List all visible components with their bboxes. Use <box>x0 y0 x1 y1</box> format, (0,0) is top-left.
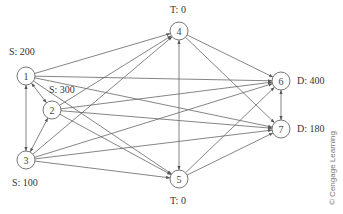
node-5-transship-label: T: 0 <box>170 196 186 206</box>
edge-1-2 <box>31 83 46 103</box>
node-3: 3 <box>17 151 35 169</box>
node-6: 6 <box>272 72 290 90</box>
node-number: 1 <box>24 71 29 82</box>
node-4-transship-label: T: 0 <box>170 5 186 15</box>
edge-1-4 <box>35 34 171 74</box>
node-number: 4 <box>177 26 182 37</box>
node-4: 4 <box>170 22 188 40</box>
node-number: 7 <box>279 124 284 135</box>
edge-3-7 <box>35 130 272 159</box>
edge-5-6 <box>185 87 274 173</box>
node-number: 5 <box>177 174 182 185</box>
edge-4-6 <box>187 35 273 77</box>
node-2-supply-label: S: 300 <box>49 85 75 95</box>
edge-3-5 <box>35 161 170 178</box>
node-5: 5 <box>170 170 188 188</box>
edge-4-7 <box>185 37 274 123</box>
node-number: 3 <box>24 155 29 166</box>
copyright-notice: © Cengage Learning <box>328 131 337 205</box>
edge-1-6 <box>35 76 272 81</box>
network-diagram: 1234567 S: 200 S: 300 S: 100 T: 0 T: 0 D… <box>0 0 343 214</box>
graph-svg: 1234567 <box>0 0 343 214</box>
node-number: 6 <box>279 76 284 87</box>
edges-group <box>26 34 281 178</box>
edge-5-7 <box>187 133 273 175</box>
node-number: 2 <box>50 105 55 116</box>
node-6-demand-label: D: 400 <box>297 76 325 86</box>
node-7-demand-label: D: 180 <box>297 124 325 134</box>
node-2: 2 <box>43 101 61 119</box>
edge-2-3 <box>30 118 48 152</box>
node-3-supply-label: S: 100 <box>12 178 38 188</box>
node-1: 1 <box>17 67 35 85</box>
node-7: 7 <box>272 120 290 138</box>
node-1-supply-label: S: 200 <box>9 47 35 57</box>
